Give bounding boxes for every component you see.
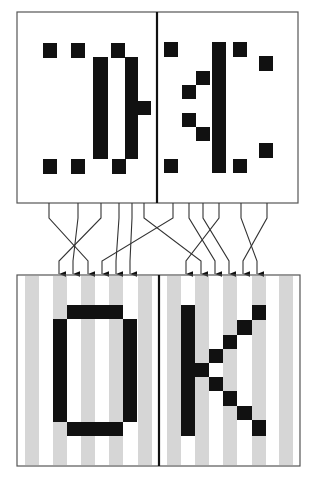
letter-k-block — [223, 335, 237, 349]
stripe — [81, 276, 95, 465]
pixel-block — [212, 42, 226, 173]
letter-k-block — [195, 363, 209, 377]
wire-arrow — [102, 203, 173, 274]
pixel-block — [233, 42, 247, 57]
pixel-block — [182, 113, 196, 127]
wire-arrow — [189, 203, 215, 274]
pixel-block — [233, 159, 247, 173]
wire-arrow — [130, 203, 132, 274]
stripe — [25, 276, 39, 465]
wire-arrow — [49, 203, 88, 274]
wire-arrow — [59, 203, 101, 274]
pixel-block — [138, 101, 151, 115]
letter-k-block — [223, 391, 237, 406]
pixel-block — [112, 159, 126, 174]
letter-o-block — [53, 319, 67, 422]
letter-o-block — [67, 305, 123, 319]
diagram-canvas: Scrambled pixel columns unscrambled into… — [0, 0, 316, 477]
pixel-block — [71, 43, 85, 58]
pixel-block — [111, 43, 125, 58]
wire-arrow — [73, 203, 78, 274]
pixel-block — [259, 143, 273, 158]
letter-k-block — [252, 305, 266, 320]
letter-o-block — [123, 319, 137, 422]
pixel-block — [43, 43, 57, 58]
stripe — [167, 276, 181, 465]
letter-k-block — [237, 320, 252, 335]
wire-arrow — [116, 203, 119, 274]
pixel-block — [125, 57, 138, 159]
stripe — [109, 276, 123, 465]
pixel-block — [196, 71, 210, 85]
wire-connectors — [49, 203, 267, 274]
letter-k-block — [209, 349, 223, 363]
letter-k-block — [237, 406, 252, 420]
letter-k-block — [209, 377, 223, 391]
stripe — [138, 276, 152, 465]
wire-arrow — [203, 203, 229, 274]
stripe — [223, 276, 237, 465]
stripe — [252, 276, 266, 465]
pixel-block — [93, 57, 108, 159]
pixel-block — [164, 159, 178, 173]
pixel-block — [196, 127, 210, 141]
letter-k-block — [181, 305, 195, 436]
stripe — [279, 276, 293, 465]
wire-arrow — [243, 203, 267, 274]
diagram-svg — [0, 0, 316, 477]
letter-o-block — [67, 422, 123, 436]
pixel-block — [43, 159, 57, 174]
pixel-block — [182, 85, 196, 99]
letter-k-block — [252, 420, 266, 436]
pixel-block — [259, 56, 273, 71]
pixel-block — [164, 42, 178, 57]
top-panel — [17, 12, 298, 203]
pixel-block — [71, 159, 85, 174]
